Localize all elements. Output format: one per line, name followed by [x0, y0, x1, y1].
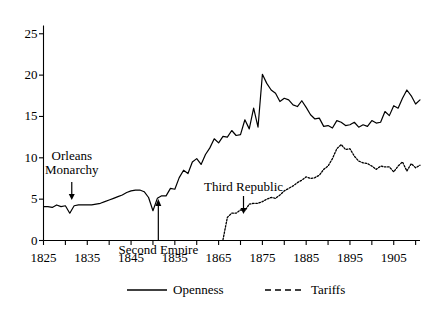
x-axis-tick-label: 1825	[24, 251, 64, 264]
annotation-second-empire: Second Empire	[98, 243, 218, 257]
arrow-third-republic-head	[241, 208, 247, 214]
arrow-orleans-monarchy-head	[69, 194, 75, 200]
axes	[39, 26, 420, 246]
y-axis-tick-label: 25	[12, 27, 38, 40]
chart-container: 0 5 10 15 20 25 1825 1835 1845 1855 1865…	[0, 0, 428, 317]
legend-label-tariffs: Tariffs	[311, 283, 345, 296]
legend-label-openness: Openness	[173, 283, 224, 296]
x-axis-tick-label: 1895	[330, 251, 370, 264]
annotation-orleans-monarchy-line1: Orleans	[24, 149, 120, 163]
x-axis-tick-label: 1905	[374, 251, 414, 264]
y-axis-tick-label: 0	[12, 234, 38, 247]
x-axis-tick-label: 1875	[242, 251, 282, 264]
x-axis-tick-label: 1885	[286, 251, 326, 264]
y-axis-tick-label: 20	[12, 68, 38, 81]
annotation-third-republic: Third Republic	[184, 180, 304, 194]
y-axis-tick-label: 15	[12, 109, 38, 122]
y-axis-tick-label: 5	[12, 192, 38, 205]
annotation-orleans-monarchy-line2: Monarchy	[24, 163, 120, 177]
